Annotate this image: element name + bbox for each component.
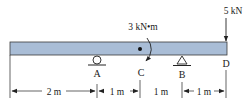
- dimension-label-c-to-b: 1 m: [154, 87, 169, 97]
- beam: [10, 42, 227, 55]
- dimension-label-left-to-a: 2 m: [47, 87, 62, 97]
- point-label-b: B: [179, 69, 186, 80]
- pin-support-icon: [173, 56, 191, 66]
- moment-label: 3 kN•m: [128, 22, 158, 32]
- beam-diagram: A 3 kN•m C B 5 kN D 2 m 1 m 1 m 1 m: [0, 0, 245, 106]
- point-label-c: C: [138, 67, 145, 78]
- point-label-d: D: [222, 58, 229, 69]
- force-label: 5 kN: [224, 6, 243, 16]
- dimension-label-b-to-d: 1 m: [197, 87, 212, 97]
- point-label-a: A: [93, 68, 101, 79]
- dimension-label-a-to-c: 1 m: [110, 87, 125, 97]
- roller-support-icon: [88, 56, 106, 65]
